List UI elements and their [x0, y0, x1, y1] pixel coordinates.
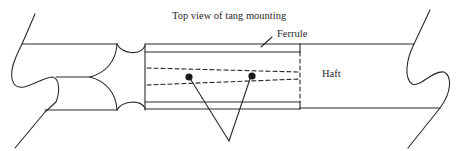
diagram-title: Top view of tang mounting	[172, 11, 286, 22]
pin-1	[185, 73, 192, 80]
tang-mounting-diagram: Top view of tang mounting Ferrule Haft	[0, 0, 459, 151]
top-notch	[117, 44, 145, 53]
bottom-notch	[117, 102, 145, 110]
pin-2	[248, 72, 255, 79]
blade-shoulder-lower	[90, 77, 117, 110]
right-break-line	[407, 10, 450, 148]
diagram-drawing	[0, 0, 459, 151]
pin-1-pointer	[191, 80, 229, 141]
haft-label: Haft	[322, 69, 341, 80]
ferrule-leader-line	[261, 37, 272, 47]
tang-upper-edge	[147, 68, 300, 72]
tang-lower-edge	[147, 79, 300, 85]
left-break-line	[12, 14, 59, 148]
pin-2-pointer	[229, 79, 250, 141]
ferrule-label: Ferrule	[277, 29, 307, 40]
blade-shoulder-upper	[90, 44, 117, 77]
